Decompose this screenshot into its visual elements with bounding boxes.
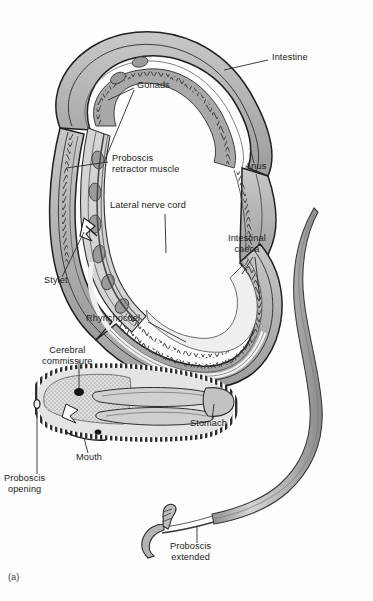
label-mouth: Mouth	[76, 452, 102, 463]
label-anus: Anus	[245, 161, 266, 172]
proboscis-opening-pore	[34, 400, 40, 409]
label-lateral-nerve-cord: Lateral nerve cord	[110, 200, 186, 211]
ventral-ganglion	[95, 429, 102, 434]
stomach-chamber	[203, 388, 234, 417]
leader-intestine	[224, 60, 268, 70]
head-region	[34, 366, 236, 441]
nemertean-anatomy-illustration	[0, 0, 373, 601]
cerebral-commissure-ganglion	[74, 388, 84, 396]
label-proboscis-opening: Proboscis opening	[4, 473, 45, 494]
label-gonads: Gonads	[137, 80, 170, 91]
label-stylet: Stylet	[44, 275, 68, 286]
label-proboscis-retractor-muscle: Proboscis retractor muscle	[112, 153, 179, 174]
label-stomach: Stomach	[190, 418, 227, 429]
rhynchocoel	[146, 266, 257, 352]
leader-mouth	[84, 438, 88, 453]
leader-lateral-nerve-cord	[165, 214, 166, 253]
label-intestine: Intestine	[272, 52, 308, 63]
label-cerebral-commissure: Cerebral commissure	[42, 345, 93, 366]
label-intestinal-caeca: Intestinal caeca	[228, 233, 266, 254]
label-rhynchocoel: Rhynchocoel	[86, 313, 140, 324]
label-proboscis-extended: Proboscis extended	[170, 541, 211, 562]
figure-caption: (a)	[8, 572, 19, 582]
anatomy-figure: Intestine Gonads Proboscis retractor mus…	[0, 0, 373, 601]
